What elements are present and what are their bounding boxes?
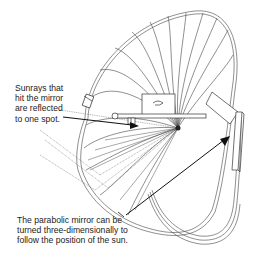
- focal-point: [176, 126, 181, 131]
- reflection-lines: [88, 128, 178, 210]
- mirror-stand: [206, 92, 244, 172]
- mirror-rotation-annotation: The parabolic mirror can be turned three…: [17, 215, 137, 246]
- sunrays-annotation: Sunrays that hit the mirror are reflecte…: [15, 83, 75, 124]
- rotation-arrow: [118, 136, 230, 217]
